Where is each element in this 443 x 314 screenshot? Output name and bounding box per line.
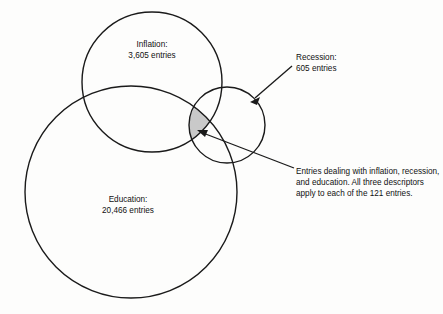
recession-label: Recession: 605 entries: [296, 52, 426, 74]
venn-diagram-figure: Inflation: 3,605 entries Education: 20,4…: [0, 0, 443, 314]
recession-leader-line: [255, 66, 292, 98]
inflation-label: Inflation: 3,605 entries: [92, 39, 212, 61]
triple-intersection-label: Entries dealing with inflation, recessio…: [296, 166, 442, 199]
education-label: Education: 20,466 entries: [58, 194, 198, 216]
triple-intersection-leader-line: [203, 133, 294, 168]
venn-diagram-canvas: [0, 0, 443, 314]
